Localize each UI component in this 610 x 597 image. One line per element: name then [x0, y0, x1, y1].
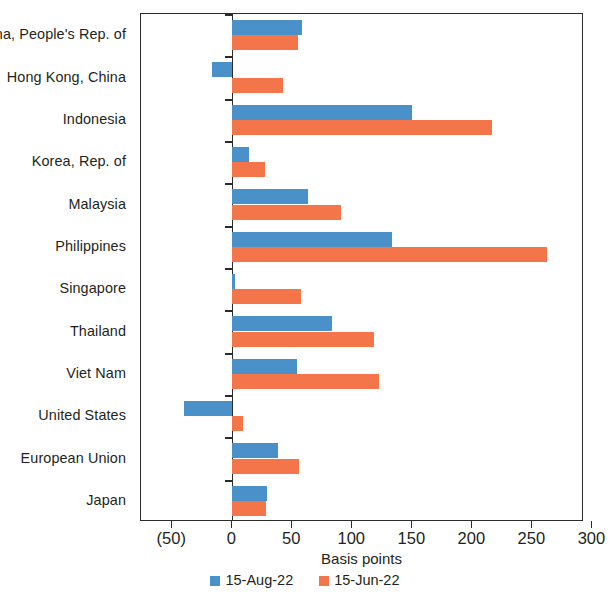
- bar-15-jun-22-japan: [232, 501, 266, 516]
- category-label: Viet Nam: [66, 365, 126, 381]
- bar-15-aug-22-european-union: [232, 443, 278, 458]
- x-axis-tick-label: 100: [338, 528, 366, 548]
- bar-15-jun-22-thailand: [232, 332, 374, 347]
- bar-15-jun-22-korea-rep-of: [232, 162, 264, 177]
- x-axis-tick: [291, 521, 292, 528]
- bar-15-aug-22-thailand: [232, 316, 332, 331]
- bar-15-aug-22-japan: [232, 486, 267, 501]
- chart-legend: 15-Aug-2215-Jun-22: [0, 572, 610, 589]
- legend-swatch-icon: [210, 576, 220, 586]
- category-label: Indonesia: [63, 111, 126, 127]
- legend-label: 15-Jun-22: [334, 572, 399, 589]
- category-label: Korea, Rep. of: [32, 153, 126, 169]
- x-axis-tick: [471, 521, 472, 528]
- value-axis-ticks: [140, 521, 583, 528]
- x-axis-tick-label: 250: [518, 528, 546, 548]
- bar-15-aug-22-malaysia: [232, 189, 308, 204]
- category-tick: [225, 99, 232, 101]
- category-label: Hong Kong, China: [7, 69, 126, 85]
- x-axis-tick: [171, 521, 172, 528]
- bar-15-jun-22-european-union: [232, 459, 299, 474]
- bar-15-aug-22-hong-kong-china: [212, 62, 232, 77]
- x-axis-tick-label: 200: [458, 528, 486, 548]
- category-label: Japan: [86, 492, 126, 508]
- legend-label: 15-Aug-22: [225, 572, 293, 589]
- x-axis-tick: [351, 521, 352, 528]
- bar-15-jun-22-united-states: [232, 416, 243, 431]
- category-label: Philippines: [55, 238, 126, 254]
- value-axis-tick-labels: (50)050100150200250300: [0, 528, 610, 550]
- category-tick: [225, 268, 232, 270]
- category-tick: [225, 141, 232, 143]
- category-tick: [225, 353, 232, 355]
- plot-area: [140, 13, 583, 521]
- category-tick: [225, 14, 232, 16]
- bar-15-jun-22-singapore: [232, 289, 300, 304]
- bar-15-jun-22-malaysia: [232, 205, 341, 220]
- x-axis-tick-label: (50): [157, 528, 186, 548]
- category-tick: [225, 310, 232, 312]
- category-label: United States: [38, 407, 126, 423]
- bar-15-jun-22-china-people-s-rep-of: [232, 35, 298, 50]
- x-axis-tick-label: 300: [578, 528, 606, 548]
- legend-item[interactable]: 15-Jun-22: [319, 572, 399, 589]
- category-tick: [225, 480, 232, 482]
- category-tick: [225, 395, 232, 397]
- category-label: Singapore: [59, 280, 126, 296]
- x-axis-tick-label: 150: [398, 528, 426, 548]
- category-label: China, People's Rep. of: [0, 26, 126, 42]
- bar-15-aug-22-united-states: [184, 401, 232, 416]
- x-axis-tick: [531, 521, 532, 528]
- bar-15-aug-22-viet-nam: [232, 359, 297, 374]
- x-axis-tick: [411, 521, 412, 528]
- category-label: Malaysia: [68, 196, 126, 212]
- bar-15-aug-22-indonesia: [232, 105, 412, 120]
- category-tick: [225, 226, 232, 228]
- bar-15-aug-22-china-people-s-rep-of: [232, 20, 302, 35]
- bar-15-aug-22-philippines: [232, 232, 392, 247]
- category-tick: [225, 183, 232, 185]
- category-tick: [225, 437, 232, 439]
- bar-15-jun-22-indonesia: [232, 120, 491, 135]
- category-label: Thailand: [70, 323, 126, 339]
- category-axis-labels: China, People's Rep. ofHong Kong, ChinaI…: [0, 13, 133, 521]
- x-axis-tick: [231, 521, 232, 528]
- bar-chart: China, People's Rep. ofHong Kong, ChinaI…: [0, 0, 610, 597]
- x-axis-tick: [591, 521, 592, 528]
- x-axis-tick-label: 0: [227, 528, 236, 548]
- category-tick: [225, 56, 232, 58]
- bar-15-aug-22-singapore: [232, 274, 234, 289]
- bar-15-jun-22-philippines: [232, 247, 547, 262]
- bar-15-jun-22-viet-nam: [232, 374, 378, 389]
- category-label: European Union: [21, 450, 126, 466]
- bar-15-aug-22-korea-rep-of: [232, 147, 249, 162]
- x-axis-tick-label: 50: [282, 528, 300, 548]
- x-axis-title: Basis points: [140, 549, 583, 568]
- legend-swatch-icon: [319, 576, 329, 586]
- legend-item[interactable]: 15-Aug-22: [210, 572, 293, 589]
- bar-15-jun-22-hong-kong-china: [232, 78, 282, 93]
